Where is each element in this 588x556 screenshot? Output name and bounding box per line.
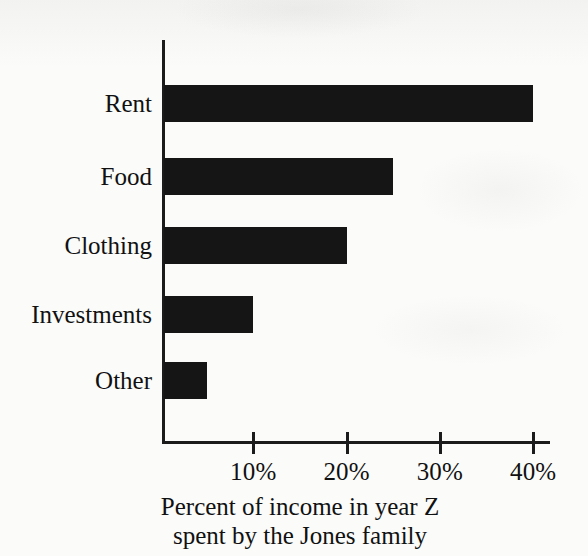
x-axis-tick-mark <box>439 432 442 454</box>
x-axis-tick-label: 10% <box>208 457 298 487</box>
x-axis-tick-label: 40% <box>488 457 578 487</box>
x-axis-line <box>162 441 550 444</box>
x-axis-tick-mark <box>346 432 349 454</box>
category-label-rent: Rent <box>0 89 152 119</box>
bar-chart-figure: 10%20%30%40% RentFoodClothingInvestments… <box>0 0 588 556</box>
bar-investments <box>164 296 253 333</box>
bar-rent <box>164 85 533 122</box>
bar-food <box>164 158 393 195</box>
x-axis-tick-label: 30% <box>395 457 485 487</box>
category-label-other: Other <box>0 366 152 396</box>
x-axis-tick-mark <box>532 432 535 454</box>
caption-line-1: Percent of income in year Z <box>80 492 520 521</box>
category-label-food: Food <box>0 162 152 192</box>
bar-clothing <box>164 227 347 264</box>
caption-line-2: spent by the Jones family <box>80 521 520 550</box>
category-label-investments: Investments <box>0 300 152 330</box>
chart-caption: Percent of income in year Z spent by the… <box>80 492 520 550</box>
x-axis-tick-mark <box>252 432 255 454</box>
bar-other <box>164 362 207 399</box>
x-axis-tick-label: 20% <box>302 457 392 487</box>
category-label-clothing: Clothing <box>0 231 152 261</box>
